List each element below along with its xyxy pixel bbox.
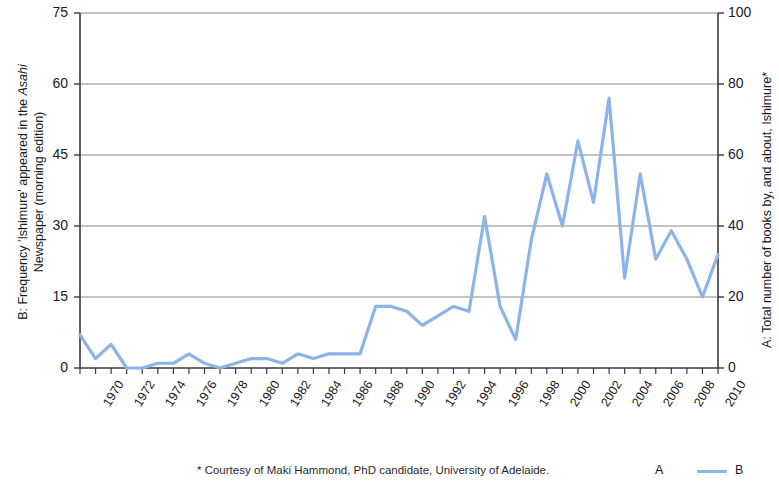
legend-swatch-b (697, 470, 727, 473)
chart-figure: B: Frequency 'Ishimure' appeared in the … (0, 0, 779, 489)
legend-a-text: A (655, 463, 663, 477)
y2-axis-tick-label: 40 (728, 217, 762, 233)
y2-axis-tick-label: 100 (728, 4, 762, 20)
y2-axis-tick-label: 0 (728, 359, 762, 375)
footnote-text: * Courtesy of Maki Hammond, PhD candidat… (197, 464, 549, 476)
y-axis-tick-label: 30 (34, 217, 68, 233)
y-axis-tick-label: 15 (34, 288, 68, 304)
legend-label-b: B (735, 463, 743, 477)
y2-axis-tick-label: 20 (728, 288, 762, 304)
legend-b-text: B (735, 463, 743, 477)
footnote: * Courtesy of Maki Hammond, PhD candidat… (197, 464, 549, 476)
data-line-series-b (80, 98, 718, 368)
y-axis-tick-label: 45 (34, 146, 68, 162)
y2-axis-tick-label: 80 (728, 75, 762, 91)
y-axis-tick-label: 60 (34, 75, 68, 91)
y-axis-tick-label: 75 (34, 4, 68, 20)
legend-label-a: A (655, 463, 663, 477)
y2-axis-tick-label: 60 (728, 146, 762, 162)
y-axis-tick-label: 0 (34, 359, 68, 375)
plot-area (0, 0, 779, 489)
